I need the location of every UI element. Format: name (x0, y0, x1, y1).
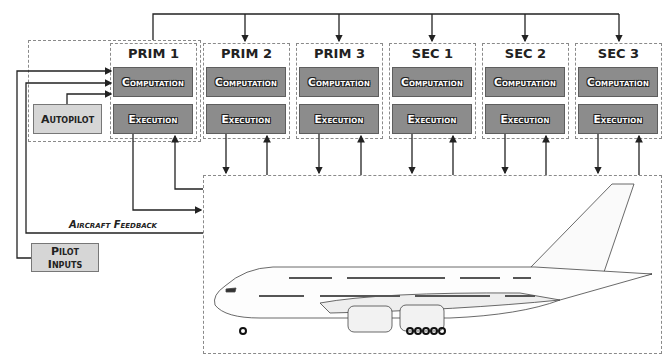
flight-control-diagram: PRIM 1 PRIM 2 PRIM 3 SEC 1 SEC 2 SEC 3 C… (0, 0, 672, 362)
aircraft-icon (0, 0, 672, 362)
